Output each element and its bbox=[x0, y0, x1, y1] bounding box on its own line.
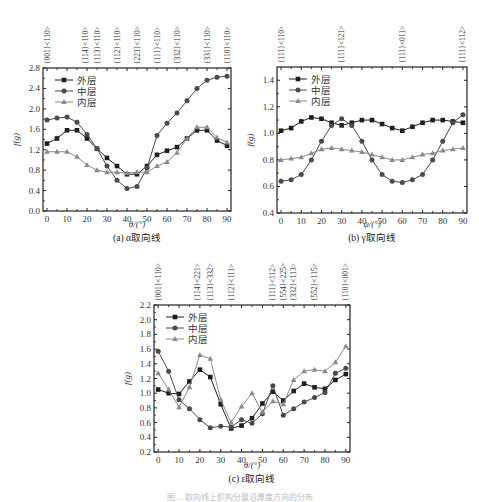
circle-marker-icon bbox=[349, 123, 354, 128]
orientation-label: {001}<110> bbox=[154, 263, 163, 301]
y-axis-label: f(g) bbox=[245, 134, 255, 147]
x-tick-label: 90 bbox=[223, 214, 233, 224]
circle-marker-icon bbox=[195, 86, 200, 91]
orientation-label: {111}<011> bbox=[398, 26, 407, 63]
circle-marker-icon bbox=[359, 139, 364, 144]
square-marker-icon bbox=[208, 375, 213, 380]
legend: 外层中层内层 bbox=[55, 75, 97, 108]
legend-entry: 中层 bbox=[311, 85, 331, 96]
triangle-marker-icon bbox=[312, 367, 318, 372]
circle-marker-icon bbox=[173, 326, 178, 331]
square-marker-icon bbox=[339, 123, 344, 128]
circle-marker-icon bbox=[299, 172, 304, 177]
circle-marker-icon bbox=[296, 88, 301, 93]
square-marker-icon bbox=[370, 118, 375, 123]
orientation-label: {111}<110> bbox=[153, 27, 162, 64]
x-tick-label: 80 bbox=[203, 214, 213, 224]
x-tick-label: 10 bbox=[297, 216, 307, 226]
legend: 外层中层内层 bbox=[289, 74, 331, 107]
x-tick-label: 30 bbox=[337, 216, 347, 226]
x-tick-label: 30 bbox=[216, 455, 226, 465]
circle-marker-icon bbox=[187, 406, 192, 411]
circle-marker-icon bbox=[370, 157, 375, 162]
series-inner bbox=[44, 124, 230, 175]
orientation-label: {112}<110> bbox=[113, 26, 122, 64]
y-tick-label: 2.2 bbox=[140, 300, 151, 310]
square-marker-icon bbox=[75, 128, 80, 133]
subplot-caption: (a) α取向线 bbox=[113, 232, 161, 244]
x-tick-label: 70 bbox=[183, 214, 193, 224]
legend-entry: 内层 bbox=[188, 334, 208, 345]
chart-a: 0102030405060708090θ/(°)0.00.40.81.21.62… bbox=[11, 26, 232, 244]
y-tick-label: 1.2 bbox=[263, 102, 274, 112]
circle-marker-icon bbox=[450, 120, 455, 125]
orientation-label: {114}<221> bbox=[193, 263, 202, 301]
square-marker-icon bbox=[173, 315, 178, 320]
square-marker-icon bbox=[289, 126, 294, 131]
y-tick-label: 1.6 bbox=[140, 344, 152, 354]
orientation-label: {111}<110> bbox=[277, 26, 286, 63]
square-marker-icon bbox=[400, 128, 405, 133]
y-tick-label: 2.8 bbox=[29, 63, 41, 73]
chart-c: 0102030405060708090θ/(°)0.20.40.60.81.01… bbox=[122, 263, 351, 485]
x-tick-label: 20 bbox=[317, 216, 327, 226]
y-axis-label: f(g) bbox=[11, 133, 21, 146]
circle-marker-icon bbox=[218, 424, 223, 429]
legend-entry: 外层 bbox=[77, 75, 97, 86]
triangle-marker-icon bbox=[329, 145, 335, 150]
circle-marker-icon bbox=[115, 178, 120, 183]
x-tick-label: 0 bbox=[45, 214, 50, 224]
y-tick-label: 0.8 bbox=[29, 165, 41, 175]
square-marker-icon bbox=[175, 145, 180, 150]
square-marker-icon bbox=[105, 156, 110, 161]
x-tick-label: 80 bbox=[320, 455, 330, 465]
x-tick-label: 70 bbox=[418, 216, 428, 226]
circle-marker-icon bbox=[281, 413, 286, 418]
square-marker-icon bbox=[291, 389, 296, 394]
y-tick-label: 0.6 bbox=[140, 418, 152, 428]
orientation-labels: {001}<110>{114}<110>{113}<110>{112}<110>… bbox=[43, 26, 232, 64]
y-axis-label: f(g) bbox=[122, 372, 132, 385]
square-marker-icon bbox=[302, 381, 307, 386]
y-tick-label: 0.4 bbox=[140, 432, 152, 442]
x-tick-label: 20 bbox=[195, 455, 205, 465]
chart-b: 0102030405060708090ψ/(°)0.40.60.81.01.21… bbox=[245, 25, 468, 244]
circle-marker-icon bbox=[312, 395, 317, 400]
x-tick-label: 30 bbox=[103, 214, 113, 224]
legend-entry: 中层 bbox=[188, 323, 208, 334]
triangle-marker-icon bbox=[460, 145, 466, 150]
orientation-label: {223}<110> bbox=[133, 26, 142, 64]
orientation-label: {110}<110> bbox=[223, 26, 232, 64]
circle-marker-icon bbox=[125, 186, 130, 191]
orientation-label: {111}<112> bbox=[268, 264, 277, 301]
square-marker-icon bbox=[62, 78, 67, 83]
triangle-marker-icon bbox=[155, 370, 161, 375]
y-tick-label: 1.4 bbox=[140, 359, 152, 369]
plot-frame bbox=[154, 305, 350, 452]
circle-marker-icon bbox=[208, 425, 213, 430]
circle-marker-icon bbox=[339, 116, 344, 121]
x-tick-label: 70 bbox=[300, 455, 310, 465]
circle-marker-icon bbox=[289, 177, 294, 182]
y-tick-label: 1.0 bbox=[140, 388, 152, 398]
circle-marker-icon bbox=[343, 366, 348, 371]
y-tick-label: 0.8 bbox=[140, 403, 152, 413]
circle-marker-icon bbox=[225, 74, 230, 79]
legend: 外层中层内层 bbox=[166, 312, 208, 345]
circle-marker-icon bbox=[380, 172, 385, 177]
circle-marker-icon bbox=[440, 139, 445, 144]
circle-marker-icon bbox=[410, 177, 415, 182]
square-marker-icon bbox=[344, 372, 349, 377]
square-marker-icon bbox=[250, 416, 255, 421]
y-tick-label: 1.4 bbox=[263, 75, 275, 85]
circle-marker-icon bbox=[166, 369, 171, 374]
y-tick-label: 0.2 bbox=[140, 447, 151, 457]
y-tick-label: 0.8 bbox=[263, 155, 275, 165]
orientation-label: {554}<225> bbox=[279, 263, 288, 301]
x-tick-label: 0 bbox=[156, 455, 161, 465]
circle-marker-icon bbox=[460, 112, 465, 117]
square-marker-icon bbox=[380, 122, 385, 127]
triangle-marker-icon bbox=[249, 390, 255, 395]
x-tick-label: 80 bbox=[438, 216, 448, 226]
circle-marker-icon bbox=[329, 123, 334, 128]
